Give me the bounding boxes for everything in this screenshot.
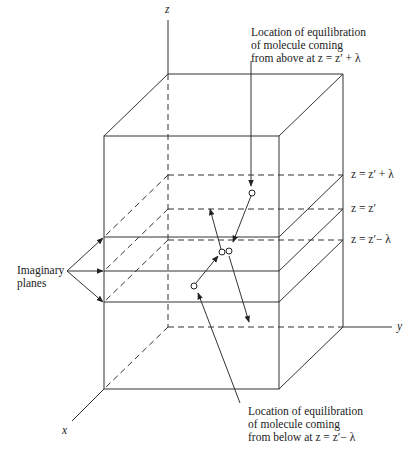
plane-label-middle: z = z′	[351, 202, 376, 215]
molecule-circle-center-right	[226, 248, 232, 254]
y-axis-label: y	[397, 320, 402, 333]
molecule-circle-below	[191, 283, 197, 289]
x-axis-hidden	[104, 327, 168, 389]
box-edge	[279, 74, 343, 136]
box-front-face	[104, 136, 279, 389]
top-annotation-line3: from above at z = z′ + λ	[251, 52, 361, 65]
molecule-circle-center-left	[219, 249, 225, 255]
diagram-canvas	[0, 0, 417, 459]
bottom-leader-arrow	[198, 293, 240, 403]
molecule-down-arrow-2	[229, 256, 249, 322]
imaginary-planes-label-line2: planes	[17, 277, 46, 290]
bottom-annotation-line1: Location of equilibration	[248, 405, 363, 418]
bottom-annotation-line3: from below at z = z′− λ	[248, 431, 355, 444]
molecule-down-arrow-1	[233, 196, 251, 242]
bottom-annotation-line2: of molecule coming	[248, 418, 340, 431]
molecule-circle-above	[249, 190, 255, 196]
plane-label-upper: z = z′ + λ	[351, 168, 394, 181]
z-axis-label: z	[165, 3, 169, 16]
x-axis-label: x	[62, 424, 67, 437]
imaginary-planes-label-line1: Imaginary	[17, 264, 64, 277]
molecule-up-arrow-1	[196, 256, 218, 283]
molecule-up-arrow-2	[210, 209, 221, 249]
x-axis	[72, 389, 104, 421]
plane-label-lower: z = z′− λ	[351, 233, 391, 246]
plane-upper	[104, 175, 343, 237]
top-annotation-line2: of molecule coming	[251, 39, 343, 52]
imaginary-planes-arrows	[67, 238, 103, 302]
box-edge	[279, 327, 343, 389]
top-annotation-line1: Location of equilibration	[251, 26, 366, 39]
box-edge	[104, 74, 168, 136]
